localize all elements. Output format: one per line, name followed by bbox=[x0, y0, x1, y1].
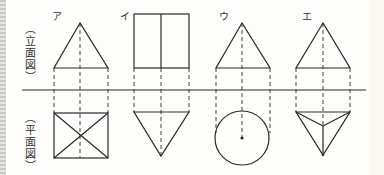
u-elevation bbox=[216, 23, 270, 68]
e-apex-dot bbox=[322, 154, 324, 156]
label-i: イ bbox=[120, 11, 130, 22]
label-e: エ bbox=[302, 11, 312, 22]
a-elevation bbox=[54, 23, 108, 68]
option-e bbox=[296, 23, 350, 155]
u-center-dot bbox=[240, 136, 243, 139]
i-plan bbox=[134, 112, 189, 156]
label-a: ア bbox=[52, 11, 62, 22]
option-u bbox=[215, 23, 270, 165]
projection-diagram: ア イ ウ エ bbox=[0, 0, 384, 175]
label-u: ウ bbox=[219, 11, 229, 22]
option-i bbox=[134, 14, 189, 156]
